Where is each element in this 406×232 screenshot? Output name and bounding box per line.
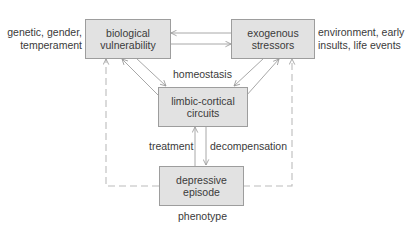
node-exogenous-stressors: exogenous stressors <box>231 19 315 59</box>
arrow-limbic-to-exogenous <box>246 59 279 96</box>
node-label-line1: exogenous <box>247 27 298 40</box>
diagram-canvas: biological vulnerability exogenous stres… <box>0 0 406 232</box>
node-label-line1: biological <box>106 27 150 40</box>
annotation-line1: genetic, gender, <box>4 26 82 39</box>
annotation-treatment: treatment <box>149 140 193 153</box>
annotation-decompensation: decompensation <box>210 140 287 153</box>
arrow-exogenous-to-limbic <box>234 58 264 86</box>
annotation-exogenous-factors: environment, early insults, life events <box>318 26 404 51</box>
node-label-line2: episode <box>183 186 220 199</box>
annotation-line2: insults, life events <box>318 39 404 52</box>
node-limbic-cortical-circuits: limbic-cortical circuits <box>158 87 248 127</box>
node-label-line2: stressors <box>252 39 295 52</box>
node-depressive-episode: depressive episode <box>159 166 244 206</box>
node-label-line2: circuits <box>187 107 220 120</box>
arrow-biological-to-limbic <box>136 58 166 86</box>
annotation-line2: temperament <box>4 39 82 52</box>
node-label-line1: depressive <box>176 174 227 187</box>
node-label-line2: vulnerability <box>100 39 155 52</box>
dashed-arrow-depressive-to-biological <box>106 59 159 186</box>
annotation-line1: environment, early <box>318 26 404 39</box>
annotation-biological-factors: genetic, gender, temperament <box>4 26 82 51</box>
annotation-phenotype: phenotype <box>178 210 227 223</box>
annotation-homeostasis: homeostasis <box>173 68 232 81</box>
dashed-arrow-depressive-to-exogenous <box>243 59 292 186</box>
node-biological-vulnerability: biological vulnerability <box>85 19 171 59</box>
node-label-line1: limbic-cortical <box>171 95 235 108</box>
arrow-limbic-to-biological <box>122 59 158 95</box>
